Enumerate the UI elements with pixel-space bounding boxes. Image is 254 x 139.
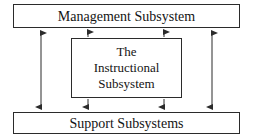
subsystem-diagram: Management Subsystem The Instructional S…	[0, 0, 254, 139]
box-instructional-label-line2: Instructional	[94, 60, 160, 76]
box-support-subsystems: Support Subsystems	[13, 112, 240, 134]
box-instructional-label-line3: Subsystem	[98, 76, 154, 92]
box-support-label: Support Subsystems	[70, 116, 184, 131]
box-instructional-subsystem: The Instructional Subsystem	[71, 38, 182, 98]
box-instructional-label-line1: The	[116, 44, 136, 60]
box-management-subsystem: Management Subsystem	[13, 4, 240, 28]
box-management-label: Management Subsystem	[58, 9, 195, 24]
